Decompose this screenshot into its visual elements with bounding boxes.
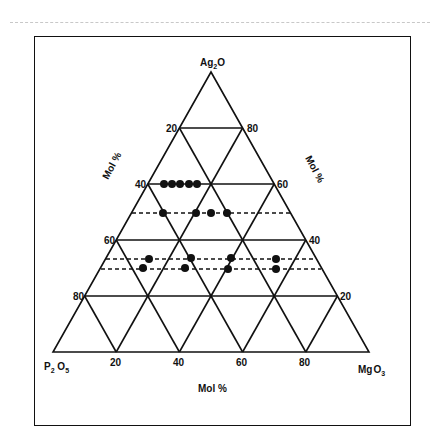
- bottom-tick-20: 20: [110, 357, 122, 368]
- vertex-label-ag2o: Ag2O: [200, 57, 225, 70]
- vertex-label-mgo3: MgO3: [358, 364, 385, 377]
- bottom-tick-40: 40: [173, 357, 185, 368]
- right-tick-80: 80: [247, 123, 259, 134]
- data-point: [272, 265, 280, 273]
- left-tick-80: 80: [73, 291, 85, 302]
- data-point: [159, 209, 167, 217]
- data-point: [145, 255, 153, 263]
- data-point: [192, 209, 200, 217]
- bottom-tick-80: 80: [299, 357, 311, 368]
- data-point: [224, 265, 232, 273]
- left-tick-20: 20: [166, 123, 178, 134]
- data-point: [187, 254, 195, 262]
- right-tick-60: 60: [277, 179, 289, 190]
- data-point: [272, 255, 280, 263]
- bottom-tick-60: 60: [236, 357, 248, 368]
- data-point: [139, 264, 147, 272]
- data-point: [207, 209, 215, 217]
- left-tick-60: 60: [104, 235, 116, 246]
- ternary-diagram: Ag2O 20 40 60 80 80 60 40 20 20 40 60 80…: [0, 0, 440, 448]
- right-axis-label: Mol %: [303, 154, 326, 185]
- data-point: [160, 180, 168, 188]
- data-point: [223, 209, 231, 217]
- dashed-composition-lines: [101, 213, 321, 269]
- right-tick-20: 20: [340, 291, 352, 302]
- data-point: [185, 180, 193, 188]
- left-tick-40: 40: [135, 179, 147, 190]
- left-axis-label: Mol %: [100, 150, 123, 181]
- data-point: [181, 264, 189, 272]
- data-points: [139, 180, 280, 273]
- vertex-label-p2o5: P2 O5: [44, 361, 69, 374]
- data-point: [193, 180, 201, 188]
- bottom-axis-label: Mol %: [198, 383, 227, 394]
- data-point: [176, 180, 184, 188]
- data-point: [227, 254, 235, 262]
- data-point: [168, 180, 176, 188]
- right-tick-40: 40: [309, 235, 321, 246]
